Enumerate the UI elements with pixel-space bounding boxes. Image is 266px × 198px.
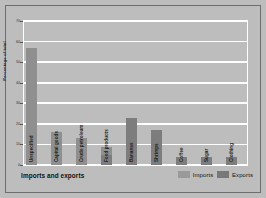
y-axis-tick-label: 10 — [6, 142, 20, 146]
chart-footer: Imports and exports Imports Exports — [5, 168, 261, 190]
legend: Imports Exports — [178, 171, 253, 178]
y-axis-tick-label: 20 — [6, 122, 20, 126]
y-axis-tick-label: 60 — [6, 40, 20, 44]
legend-swatch-imports-icon — [178, 171, 190, 178]
bar-column[interactable]: Bananas — [126, 21, 137, 165]
legend-label-imports: Imports — [193, 172, 214, 178]
legend-item-imports: Imports — [178, 171, 213, 178]
category-label: Unspecified — [29, 135, 34, 162]
chart-title: Imports and exports — [21, 172, 84, 179]
bar-column[interactable]: Unspecified — [26, 21, 37, 165]
legend-label-exports: Exports — [232, 172, 253, 178]
y-axis-tick-label: 70 — [6, 19, 20, 23]
chart-figure: Percentage of total 010203040506070 Unsp… — [0, 0, 266, 198]
category-label: Capital goods — [54, 131, 59, 162]
legend-swatch-exports-icon — [217, 171, 229, 178]
bar-column[interactable]: Shrimps — [151, 21, 162, 165]
legend-item-exports: Exports — [217, 171, 253, 178]
category-label: Crude petroleum — [79, 124, 84, 162]
bar-column[interactable]: Capital goods — [51, 21, 62, 165]
y-axis-tick-label: 50 — [6, 60, 20, 64]
bar-column[interactable]: Crude petroleum — [76, 21, 87, 165]
bar-column[interactable]: Sugar — [201, 21, 212, 165]
y-axis-tick-label: 40 — [6, 81, 20, 85]
category-label: Shrimps — [154, 143, 159, 162]
category-label: Food products — [104, 129, 109, 162]
bar-group: UnspecifiedCapital goodsCrude petroleumF… — [23, 21, 248, 165]
category-label: Bananas — [129, 143, 134, 163]
y-axis-tick-label: 30 — [6, 101, 20, 105]
category-label: Sugar — [204, 149, 209, 162]
category-label: Coffee — [179, 147, 184, 162]
bar-column[interactable]: Clothing — [226, 21, 237, 165]
y-axis-tick-label: 0 — [6, 163, 20, 167]
category-label: Clothing — [229, 143, 234, 162]
bar-column[interactable]: Food products — [101, 21, 112, 165]
bar-column[interactable]: Coffee — [176, 21, 187, 165]
